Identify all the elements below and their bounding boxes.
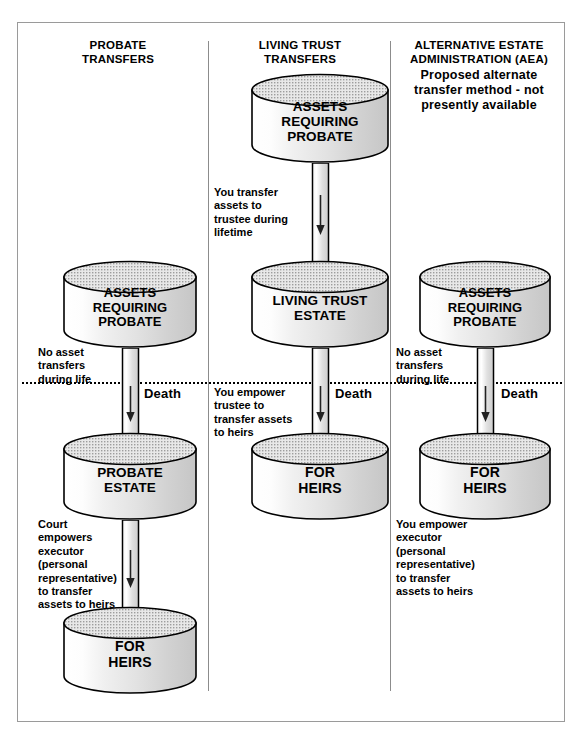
cylinder-shape [62,432,198,528]
tube-shape [311,163,330,273]
column-heading-living-trust-transfers: LIVING TRUST TRANSFERS [210,39,390,66]
column-divider-2 [390,41,391,691]
cylinder-assets-requiring-probate-3: ASSETS REQUIRING PROBATE [418,260,552,356]
note-no-asset-transfers-2: No assettransfersduring life [396,346,474,386]
column-subheading: Proposed alternatetransfer method - notp… [392,68,566,112]
death-label-3: Death [501,386,538,401]
death-label-1: Death [144,386,181,401]
cylinder-living-trust-estate: LIVING TRUST ESTATE [250,260,390,356]
heading-line-1: PROBATE [28,39,208,53]
note-you-empower-executor: You empowerexecutor(personalrepresentati… [396,518,482,598]
tube-estate-to-heirs [121,520,140,620]
cylinder-probate-estate: PROBATE ESTATE [62,432,198,528]
cylinder-shape [62,260,198,356]
death-line-segment-1 [22,382,120,384]
cylinder-shape [62,606,198,702]
heading-line-1: ALTERNATIVE ESTATE [392,39,566,53]
death-line-segment-2 [140,382,311,384]
death-line-segment-4 [496,382,562,384]
cylinder-shape [250,260,390,356]
tube-shape [121,520,140,620]
note-no-asset-transfers-1: No assettransfersduring life [38,346,116,386]
cylinder-for-heirs-3: FOR HEIRS [418,432,552,528]
heading-line-1: LIVING TRUST [210,39,390,53]
heading-line-2: TRANSFERS [28,53,208,67]
death-line-segment-3 [330,382,476,384]
cylinder-assets-requiring-probate-1: ASSETS REQUIRING PROBATE [62,260,198,356]
column-heading-probate-transfers: PROBATE TRANSFERS [28,39,208,66]
cylinder-shape [418,260,552,356]
cylinder-shape [418,432,552,528]
cylinder-shape [250,432,390,528]
heading-line-2: ADMINISTRATION (AEA) [392,53,566,67]
heading-line-2: TRANSFERS [210,53,390,67]
death-label-2: Death [335,386,372,401]
diagram-frame: PROBATE TRANSFERS LIVING TRUST TRANSFERS… [17,22,565,722]
column-divider-1 [208,41,209,691]
note-you-transfer-assets-to-trustee: You transferassets totrustee duringlifet… [214,186,292,240]
note-court-empowers-executor: Courtempowersexecutor(personalrepresenta… [38,518,120,612]
tube-transfer-to-trust [311,163,330,273]
cylinder-shape [250,73,390,171]
cylinder-for-heirs-2: FOR HEIRS [250,432,390,528]
column-heading-alternative-estate-administration: ALTERNATIVE ESTATE ADMINISTRATION (AEA) … [392,39,566,112]
cylinder-assets-requiring-probate-2: ASSETS REQUIRING PROBATE [250,73,390,171]
cylinder-for-heirs-1: FOR HEIRS [62,606,198,702]
